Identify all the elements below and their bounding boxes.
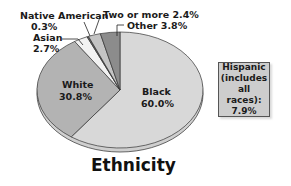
hispanic-line4: 7.9%	[219, 106, 269, 117]
asian-pct: 2.7%	[33, 43, 60, 54]
native-american-label: Native American	[20, 10, 109, 21]
white-label: White	[62, 79, 93, 90]
asian-label: Asian	[33, 32, 63, 43]
black-pct: 60.0%	[141, 98, 174, 109]
other-label: Other 3.8%	[127, 20, 188, 31]
chart-title: Ethnicity	[91, 155, 176, 175]
hispanic-line1: Hispanic	[219, 62, 269, 73]
native-american-pct: 0.3%	[31, 21, 58, 32]
hispanic-callout: Hispanic (includes all races): 7.9%	[218, 62, 270, 117]
hispanic-line2: (includes	[219, 73, 269, 84]
two-or-more-label: Two or more 2.4%	[103, 9, 199, 20]
hispanic-line3: all races):	[219, 84, 269, 106]
pie-slices	[37, 32, 203, 148]
white-pct: 30.8%	[59, 91, 92, 102]
black-label: Black	[142, 86, 172, 97]
